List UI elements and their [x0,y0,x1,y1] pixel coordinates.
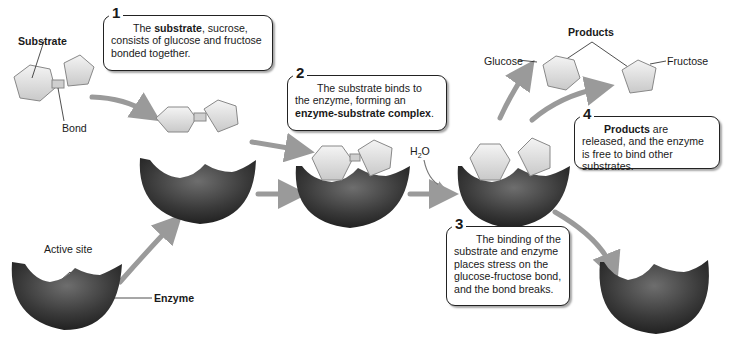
step-number: 3 [452,216,466,231]
step-number: 2 [293,65,307,80]
fructose-product [622,60,656,93]
step-number: 4 [580,106,594,121]
enzyme-cleaved-products [458,138,570,228]
fructose-label: Fructose [667,55,708,67]
enzyme-ready [140,158,256,224]
sucrose-substrate-free [14,55,94,101]
substrate-label: Substrate [18,35,67,47]
step-2-callout: 2 The substrate binds to the enzyme, for… [287,75,447,131]
bond-label: Bond [62,122,87,134]
step-1-callout: 1 The substrate, sucrose, consists of gl… [103,15,273,71]
water-label: H2O [410,145,430,162]
enzyme-free [12,262,122,330]
step-number: 1 [109,5,123,20]
enzyme-label: Enzyme [154,292,194,304]
enzyme-substrate-complex [296,140,410,228]
active-site-label: Active site [44,243,92,255]
step-4-callout: 4 Products are released, and the enzyme … [574,116,720,169]
step-3-callout: 3 The binding of the substrate and enzym… [446,226,570,306]
products-label: Products [568,26,614,38]
enzyme-recycled [599,260,708,334]
glucose-label: Glucose [484,55,523,67]
glucose-product [543,56,580,90]
water-arrow [424,160,441,186]
sucrose-substrate-approaching [156,100,238,132]
